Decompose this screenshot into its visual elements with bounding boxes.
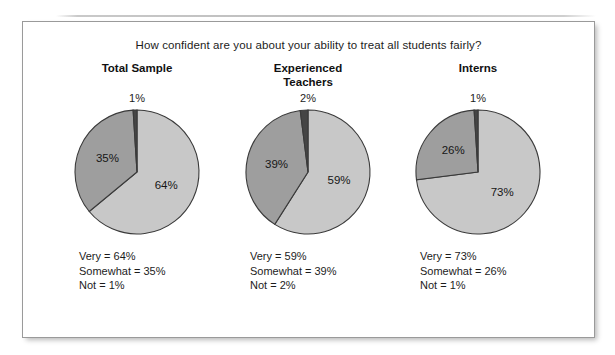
legend-item-not: Not = 1% (420, 278, 568, 293)
figure-panel: How confident are you about your ability… (22, 21, 595, 338)
not-slice-callout-label: 2% (218, 90, 398, 107)
legend-item-somewhat: Somewhat = 35% (79, 264, 227, 279)
legend-item-somewhat: Somewhat = 26% (420, 264, 568, 279)
legend: Very = 73% Somewhat = 26% Not = 1% (388, 249, 568, 293)
pie-slice-label-somewhat: 39% (265, 158, 288, 170)
pie-graphic: 59%39% (218, 107, 398, 237)
pie-slice-label-somewhat: 26% (442, 144, 465, 156)
legend-item-not: Not = 1% (79, 278, 227, 293)
pie-chart-total-sample: Total Sample 1% 64%35% Very = 64% Somewh… (47, 62, 227, 293)
pie-graphic: 64%35% (47, 107, 227, 237)
page-title: How confident are you about your ability… (23, 39, 594, 51)
not-slice-callout-label: 1% (47, 90, 227, 107)
pie-svg-2: 73%26% (413, 107, 543, 237)
pie-graphic: 73%26% (388, 107, 568, 237)
pie-svg-0: 64%35% (72, 107, 202, 237)
pie-chart-interns: Interns 1% 73%26% Very = 73% Somewhat = … (388, 62, 568, 293)
chart-title: Experienced Teachers (218, 62, 398, 90)
pie-slice-label-very: 73% (491, 186, 514, 198)
legend-item-very: Very = 59% (250, 249, 398, 264)
not-slice-callout-label: 1% (388, 90, 568, 107)
chart-title: Total Sample (47, 62, 227, 90)
top-scan-rule (56, 15, 596, 17)
legend-item-not: Not = 2% (250, 278, 398, 293)
legend-item-somewhat: Somewhat = 39% (250, 264, 398, 279)
pie-chart-experienced-teachers: Experienced Teachers 2% 59%39% Very = 59… (218, 62, 398, 293)
legend: Very = 64% Somewhat = 35% Not = 1% (47, 249, 227, 293)
pie-svg-1: 59%39% (243, 107, 373, 237)
pie-slice-label-somewhat: 35% (96, 152, 119, 164)
legend-item-very: Very = 73% (420, 249, 568, 264)
legend: Very = 59% Somewhat = 39% Not = 2% (218, 249, 398, 293)
pie-slice-label-very: 64% (155, 179, 178, 191)
legend-item-very: Very = 64% (79, 249, 227, 264)
pie-slice-label-very: 59% (327, 174, 350, 186)
chart-title: Interns (388, 62, 568, 90)
